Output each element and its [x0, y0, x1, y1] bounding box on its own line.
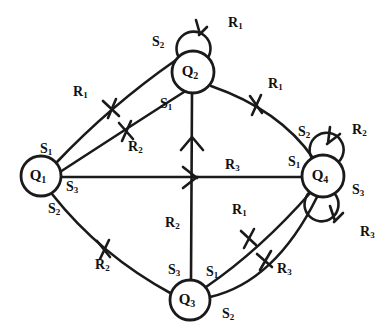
label-q4-loop-r3: R3 [360, 225, 375, 239]
label-center-r2: R2 [165, 216, 180, 230]
label-q4-left-s1: S1 [288, 155, 300, 169]
state-graph-canvas: Q1 Q2 Q3 Q4 [0, 0, 389, 333]
label-q3-right-s2: S2 [222, 307, 234, 321]
edge-q2-q4 [211, 86, 313, 158]
label-q3-q4-r1: R1 [232, 203, 247, 217]
edge-q3-q4-lower [210, 197, 317, 297]
label-q3-q4-r3: R3 [277, 262, 292, 276]
label-q1-q2-r1: R1 [73, 85, 88, 99]
arrowhead-q3-q4-upper [241, 229, 256, 248]
label-q4-loop-s3: S3 [352, 183, 364, 197]
label-q3-up-s1: S1 [206, 265, 218, 279]
label-q2-q4-r1: R1 [268, 77, 283, 91]
state-diagram: Q1 Q2 Q3 Q4 S2R1R1S1R2S1S3S2R1S2R2S1S3R3… [0, 0, 389, 333]
edge-q3-q2-vertical [191, 93, 192, 280]
label-q4-s2: S2 [298, 125, 310, 139]
label-q1-up-s1: S1 [40, 142, 52, 156]
label-q1-down-s2: S2 [48, 202, 60, 216]
label-q4-loop-r2: R2 [352, 123, 367, 137]
label-q1-right-s3: S3 [66, 180, 78, 194]
label-q2-q1-r2: R2 [128, 140, 143, 154]
label-q2-loop-s2: S2 [152, 35, 164, 49]
label-center-r3: R3 [225, 158, 240, 172]
label-q3-left-s3: S3 [168, 263, 180, 277]
edge-q1-q3 [52, 194, 172, 294]
label-q1-q3-r2: R2 [95, 258, 110, 272]
label-q2-loop-r1: R1 [228, 16, 243, 30]
label-q2-q1-s1: S1 [160, 97, 172, 111]
